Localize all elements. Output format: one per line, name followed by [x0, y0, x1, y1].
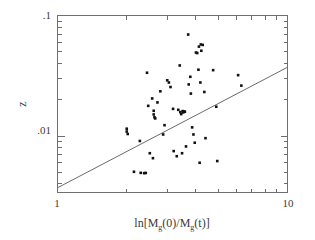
data-point: [151, 97, 154, 100]
data-point: [125, 130, 128, 133]
fit-line-group: [58, 67, 288, 188]
data-point: [139, 172, 142, 175]
data-point: [152, 109, 155, 112]
data-point: [162, 133, 165, 136]
data-point: [125, 127, 128, 130]
data-point: [181, 152, 184, 155]
data-point: [237, 74, 240, 77]
scatter-plot: .1 .01 1 10 z ln[Mg(0)/Mg(t)]: [0, 0, 315, 240]
data-point: [187, 83, 190, 86]
y-tick-label-bottom: .01: [37, 124, 51, 136]
data-point: [154, 117, 157, 120]
data-point: [168, 81, 171, 84]
data-point: [185, 145, 188, 148]
data-point: [203, 91, 206, 94]
x-axis-title: ln[Mg(0)/Mg(t)]: [134, 216, 209, 232]
data-point: [190, 92, 193, 95]
data-point: [189, 76, 192, 79]
data-point: [146, 71, 149, 74]
data-point: [184, 110, 187, 113]
axis-ticks: [58, 16, 288, 193]
data-point: [156, 101, 159, 104]
data-point: [197, 68, 200, 71]
data-point: [152, 157, 155, 160]
data-point: [193, 141, 196, 144]
plot-frame: [58, 16, 288, 193]
data-point: [175, 155, 178, 158]
data-point: [215, 105, 218, 108]
data-point: [212, 69, 215, 72]
data-point: [177, 109, 180, 112]
data-point: [172, 150, 175, 153]
data-points: [125, 33, 242, 174]
data-point: [159, 90, 162, 93]
y-tick-label-top: .1: [43, 9, 51, 21]
data-point: [169, 86, 172, 89]
data-point: [144, 172, 147, 175]
data-point: [191, 126, 194, 129]
data-point: [172, 108, 175, 111]
x-axis-title-prefix: ln[M: [134, 216, 158, 230]
data-point: [152, 113, 155, 116]
y-axis-title: z: [15, 101, 29, 106]
data-point: [187, 33, 190, 36]
x-tick-label-left: 1: [54, 197, 60, 209]
data-point: [149, 152, 152, 155]
data-point: [196, 52, 199, 55]
x-tick-label-right: 10: [283, 197, 295, 209]
x-axis-title-mid: (0)/M: [162, 216, 190, 230]
data-point: [199, 81, 202, 84]
data-point: [240, 84, 243, 87]
data-point: [192, 133, 195, 136]
data-point: [198, 161, 201, 164]
figure-container: .1 .01 1 10 z ln[Mg(0)/Mg(t)]: [0, 0, 315, 240]
data-point: [216, 160, 219, 163]
data-point: [126, 133, 129, 136]
x-axis-title-suffix: (t)]: [194, 216, 209, 230]
data-point: [147, 105, 150, 108]
data-point: [133, 170, 136, 173]
data-point: [178, 64, 181, 67]
data-point: [200, 49, 203, 52]
data-point: [201, 44, 204, 47]
data-point: [139, 140, 142, 143]
data-point: [204, 137, 207, 140]
data-point: [163, 124, 166, 127]
